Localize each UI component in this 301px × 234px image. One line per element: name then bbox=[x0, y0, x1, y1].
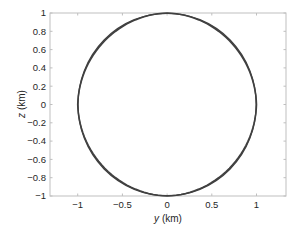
x-axis-label: y (km) bbox=[153, 213, 182, 224]
x-tick-label: 0 bbox=[164, 199, 169, 210]
y-tick-label: 1 bbox=[41, 7, 46, 18]
axes-box bbox=[50, 13, 286, 196]
y-tick-label: 0.6 bbox=[33, 44, 46, 55]
y-tick-label: −0.6 bbox=[27, 154, 46, 165]
x-tick-label: −1 bbox=[72, 199, 83, 210]
y-tick-label: −0.2 bbox=[27, 117, 46, 128]
y-tick-label: −0.8 bbox=[27, 172, 46, 183]
y-tick-label: −1 bbox=[35, 190, 46, 201]
y-tick-label: 0.8 bbox=[33, 26, 46, 37]
y-tick-label: −0.4 bbox=[27, 135, 46, 146]
y-axis-label: z (km) bbox=[16, 90, 27, 119]
y-tick-label: 0 bbox=[41, 99, 46, 110]
y-tick-label: 0.4 bbox=[33, 62, 46, 73]
x-tick-label: 0.5 bbox=[205, 199, 218, 210]
chart: −1−0.500.51 10.80.60.40.20−0.2−0.4−0.6−0… bbox=[0, 0, 301, 234]
y-tick-label: 0.2 bbox=[33, 81, 46, 92]
x-tick-label: 1 bbox=[254, 199, 259, 210]
y-axis-ticks: 10.80.60.40.20−0.2−0.4−0.6−0.8−1 bbox=[27, 7, 286, 201]
circle-curve bbox=[78, 13, 257, 196]
x-tick-label: −0.5 bbox=[113, 199, 132, 210]
axes-frame bbox=[50, 13, 286, 196]
